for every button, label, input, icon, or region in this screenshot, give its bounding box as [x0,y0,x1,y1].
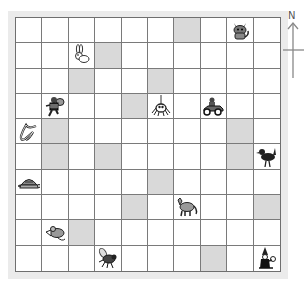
grid-cell-r4-c5 [148,119,174,144]
grid-cell-r0-c3 [95,18,121,43]
grid-cell-r7-c7 [201,195,227,220]
grid-cell-r5-c2 [69,144,95,169]
grid-cell-r5-c3 [95,144,121,169]
grid-cell-r1-c2 [69,43,95,68]
grid-cell-r3-c0 [16,94,42,119]
grid-cell-r6-c5 [148,170,174,195]
grid-cell-r1-c4 [122,43,148,68]
grid-cell-r9-c9 [254,246,280,271]
grid-cell-r3-c8 [227,94,253,119]
grid-cell-r3-c9 [254,94,280,119]
grid-cell-r8-c7 [201,220,227,245]
grid-cell-r1-c9 [254,43,280,68]
grid-cell-r3-c2 [69,94,95,119]
grid-cell-r5-c1 [42,144,68,169]
spider-icon [150,95,172,117]
grid-cell-r1-c6 [174,43,200,68]
grid-cell-r8-c8 [227,220,253,245]
grid-cell-r7-c8 [227,195,253,220]
north-arrow-icon [282,10,305,82]
grid-cell-r6-c3 [95,170,121,195]
grid-cell-r2-c0 [16,69,42,94]
grid-cell-r5-c7 [201,144,227,169]
grid-cell-r4-c6 [174,119,200,144]
robber-icon [44,95,66,117]
map-grid [15,17,281,272]
grid-cell-r4-c9 [254,119,280,144]
wolf-icon [176,196,198,218]
wizard-icon [256,247,278,269]
grid-cell-r9-c3 [95,246,121,271]
grid-cell-r8-c0 [16,220,42,245]
grid-cell-r6-c1 [42,170,68,195]
rabbit-icon [70,44,92,66]
grid-cell-r0-c7 [201,18,227,43]
grid-cell-r6-c4 [122,170,148,195]
grid-cell-r8-c4 [122,220,148,245]
grid-cell-r5-c0 [16,144,42,169]
race-car-icon [202,95,224,117]
grid-cell-r7-c1 [42,195,68,220]
grid-cell-r5-c6 [174,144,200,169]
grid-cell-r3-c5 [148,94,174,119]
grid-cell-r6-c0 [16,170,42,195]
grid-cell-r9-c2 [69,246,95,271]
grid-cell-r4-c2 [69,119,95,144]
grid-cell-r7-c4 [122,195,148,220]
grid-cell-r3-c1 [42,94,68,119]
grid-cell-r9-c6 [174,246,200,271]
snake-icon [18,120,40,142]
fly-icon [97,247,119,269]
grid-cell-r4-c8 [227,119,253,144]
grid-cell-r2-c7 [201,69,227,94]
grid-cell-r8-c3 [95,220,121,245]
grid-cell-r7-c0 [16,195,42,220]
grid-cell-r6-c6 [174,170,200,195]
grid-cell-r2-c3 [95,69,121,94]
grid-cell-r9-c5 [148,246,174,271]
grid-cell-r1-c7 [201,43,227,68]
grid-cell-r3-c4 [122,94,148,119]
grid-cell-r1-c1 [42,43,68,68]
grid-cell-r1-c3 [95,43,121,68]
grid-cell-r5-c9 [254,144,280,169]
cat-icon [229,19,251,41]
grid-cell-r8-c6 [174,220,200,245]
grid-cell-r6-c7 [201,170,227,195]
grid-cell-r7-c6 [174,195,200,220]
grid-cell-r7-c3 [95,195,121,220]
grid-cell-r5-c5 [148,144,174,169]
grid-cell-r8-c9 [254,220,280,245]
grid-cell-r9-c4 [122,246,148,271]
grid-cell-r1-c5 [148,43,174,68]
grid-cell-r6-c8 [227,170,253,195]
grid-cell-r4-c7 [201,119,227,144]
grid-cell-r7-c5 [148,195,174,220]
grid-cell-r7-c9 [254,195,280,220]
grid-cell-r0-c4 [122,18,148,43]
grid-cell-r2-c5 [148,69,174,94]
grid-cell-r9-c0 [16,246,42,271]
grid-cell-r0-c2 [69,18,95,43]
grid-cell-r0-c1 [42,18,68,43]
grid-cell-r4-c0 [16,119,42,144]
grid-cell-r6-c2 [69,170,95,195]
grid-cell-r2-c6 [174,69,200,94]
grid-cell-r2-c9 [254,69,280,94]
grid-cell-r6-c9 [254,170,280,195]
grid-cell-r1-c8 [227,43,253,68]
grid-cell-r2-c4 [122,69,148,94]
grid-cell-r3-c7 [201,94,227,119]
grid-cell-r4-c3 [95,119,121,144]
grid-cell-r0-c6 [174,18,200,43]
tortoise-icon [18,171,40,193]
mouse-icon [44,222,66,244]
grid-cell-r4-c4 [122,119,148,144]
grid-cell-r3-c3 [95,94,121,119]
grid-cell-r5-c8 [227,144,253,169]
grid-cell-r2-c2 [69,69,95,94]
grid-cell-r0-c8 [227,18,253,43]
grid-cell-r4-c1 [42,119,68,144]
grid-cell-r9-c1 [42,246,68,271]
grid-cell-r7-c2 [69,195,95,220]
